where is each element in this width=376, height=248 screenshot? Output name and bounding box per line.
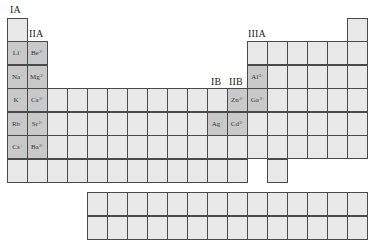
element-cell-sr: Sr2+	[27, 112, 48, 136]
actinide-cell	[307, 216, 328, 240]
element-cell-empty	[267, 41, 288, 65]
element-cell-empty	[127, 112, 148, 136]
element-cell-empty	[347, 18, 368, 42]
element-cell-empty	[167, 159, 188, 183]
element-cell-empty	[247, 41, 268, 65]
element-symbol: K	[13, 96, 18, 104]
actinide-cell	[167, 216, 188, 240]
element-cell-ga: Ga3+	[247, 88, 268, 112]
element-cell-na: Na+	[7, 65, 28, 89]
element-symbol: Mg	[30, 73, 40, 81]
actinide-cell	[227, 216, 248, 240]
element-cell-empty	[207, 88, 228, 112]
element-cell-empty	[67, 88, 88, 112]
ion-charge: 2+	[239, 97, 244, 102]
element-symbol: Li	[13, 49, 19, 57]
lanthanide-cell	[227, 192, 248, 216]
element-cell-empty	[187, 112, 208, 136]
element-cell-zn: Zn2+	[227, 88, 248, 112]
element-cell-empty	[287, 65, 308, 89]
element-cell-empty	[187, 135, 208, 159]
actinide-cell	[147, 216, 168, 240]
lanthanide-cell	[327, 192, 348, 216]
element-cell-empty	[167, 135, 188, 159]
ion-charge: 2+	[39, 144, 44, 149]
element-cell-empty	[287, 112, 308, 136]
element-cell-empty	[87, 135, 108, 159]
element-cell-empty	[227, 135, 248, 159]
element-cell-empty	[327, 88, 348, 112]
element-cell-empty	[187, 88, 208, 112]
lanthanide-cell	[127, 192, 148, 216]
element-cell-empty	[287, 135, 308, 159]
element-cell-empty	[327, 135, 348, 159]
element-cell-empty	[267, 65, 288, 89]
element-cell-al: Al3+	[247, 65, 268, 89]
lanthanide-cell	[87, 192, 108, 216]
element-cell-empty	[307, 112, 328, 136]
element-symbol: Na	[12, 73, 20, 81]
element-cell-empty	[267, 112, 288, 136]
element-cell-empty	[247, 135, 268, 159]
element-cell-empty	[347, 112, 368, 136]
element-symbol: Zn	[231, 96, 239, 104]
element-symbol: Ba	[31, 143, 39, 151]
element-symbol: Al	[251, 73, 258, 81]
element-cell-empty	[147, 135, 168, 159]
element-cell-empty	[87, 112, 108, 136]
element-cell-empty	[327, 65, 348, 89]
element-cell-empty	[347, 88, 368, 112]
element-cell-empty	[187, 159, 208, 183]
element-cell-empty	[47, 159, 68, 183]
actinide-cell	[347, 216, 368, 240]
element-cell-empty	[107, 135, 128, 159]
element-cell-empty	[147, 159, 168, 183]
element-cell-empty	[307, 135, 328, 159]
element-cell-empty	[347, 41, 368, 65]
element-cell-li: Li+	[7, 41, 28, 65]
element-symbol: Ca	[31, 96, 39, 104]
element-cell-empty	[267, 88, 288, 112]
element-cell-mg: Mg2+	[27, 65, 48, 89]
actinide-cell	[87, 216, 108, 240]
lanthanide-cell	[347, 192, 368, 216]
periodic-table: Li+Be2+Na+Mg2+Al3+K+Ca2+Zn2+Ga3+Rb+Sr2+A…	[0, 0, 376, 248]
actinide-cell	[267, 216, 288, 240]
element-cell-cd: Cd2+	[227, 112, 248, 136]
element-symbol: Sr	[32, 120, 38, 128]
lanthanide-cell	[267, 192, 288, 216]
element-cell-empty	[227, 159, 248, 183]
ion-charge: 2+	[239, 121, 244, 126]
element-cell-empty	[307, 88, 328, 112]
element-symbol: Cs	[12, 143, 19, 151]
lanthanide-cell	[167, 192, 188, 216]
group-label-iib: IIB	[229, 76, 243, 87]
lanthanide-cell	[147, 192, 168, 216]
actinide-cell	[207, 216, 228, 240]
element-cell-empty	[107, 112, 128, 136]
element-cell-empty	[27, 159, 48, 183]
lanthanide-cell	[207, 192, 228, 216]
element-cell-empty	[107, 88, 128, 112]
actinide-cell	[107, 216, 128, 240]
element-cell-empty	[147, 112, 168, 136]
lanthanide-cell	[187, 192, 208, 216]
element-symbol: Ag	[212, 120, 221, 128]
actinide-cell	[127, 216, 148, 240]
ion-charge: 2+	[39, 50, 44, 55]
actinide-cell	[287, 216, 308, 240]
element-cell-empty	[287, 88, 308, 112]
ion-charge: +	[20, 50, 23, 55]
group-label-ia: IA	[10, 4, 21, 15]
ion-charge: 2+	[40, 74, 45, 79]
element-cell-empty	[47, 135, 68, 159]
ion-charge: 3+	[259, 97, 264, 102]
element-cell-empty	[7, 18, 28, 42]
element-cell-empty	[7, 159, 28, 183]
element-cell-empty	[147, 88, 168, 112]
element-cell-empty	[167, 112, 188, 136]
element-cell-empty	[47, 112, 68, 136]
element-cell-empty	[47, 88, 68, 112]
ion-charge: +	[19, 97, 22, 102]
element-cell-ba: Ba2+	[27, 135, 48, 159]
